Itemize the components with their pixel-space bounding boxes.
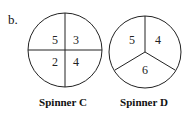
spinner-d-section: 4 [155, 33, 161, 47]
spinner-d [109, 16, 181, 88]
spinner-c-section: 5 [52, 33, 58, 47]
spinner-c-section: 4 [73, 55, 79, 69]
spinner-c-section: 3 [73, 33, 79, 47]
spinner-c-section: 2 [52, 55, 58, 69]
spinner-d-caption: Spinner D [109, 96, 179, 108]
spinner-c-caption: Spinner C [28, 96, 98, 108]
spinner-d-section: 5 [129, 33, 135, 47]
spinner-d-section: 6 [142, 63, 148, 77]
spinner-c [28, 13, 102, 87]
